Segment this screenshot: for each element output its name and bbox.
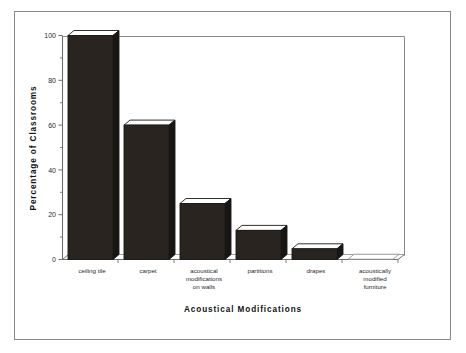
- y-axis-ticks: [59, 36, 63, 260]
- cat-label-ceiling-tile: ceiling tile: [78, 267, 106, 274]
- cat-label-furniture-line1: acoustically: [359, 267, 392, 274]
- bar-ceiling-tile[interactable]: [68, 31, 119, 260]
- cat-label-partitions: partitions: [247, 267, 272, 274]
- y-tick-label-20: 20: [48, 211, 56, 218]
- bar-carpet[interactable]: [124, 120, 175, 259]
- bar-drapes[interactable]: [292, 244, 343, 260]
- cat-label-furniture-line2: modified: [363, 275, 387, 282]
- y-axis-title: Percentage of Classrooms: [29, 86, 38, 211]
- figure-canvas: 0 20 40 60 80 100: [0, 0, 466, 353]
- cat-label-drapes: drapes: [307, 267, 326, 274]
- cat-label-carpet: carpet: [139, 267, 156, 274]
- cat-label-furniture-line3: furniture: [364, 283, 387, 290]
- x-category-labels: ceiling tile carpet acoustical modificat…: [78, 267, 391, 290]
- x-axis-title: Acoustical Modifications: [184, 305, 302, 314]
- cat-label-acoustical-walls-line2: modifications: [186, 275, 222, 282]
- y-tick-label-100: 100: [44, 32, 56, 39]
- bar-acoustically-modified-furniture[interactable]: [348, 254, 399, 259]
- y-tick-label-80: 80: [48, 77, 56, 84]
- cat-label-acoustical-walls-line1: acoustical: [190, 267, 218, 274]
- y-tick-label-0: 0: [52, 256, 56, 263]
- bar-chart-plot: 0 20 40 60 80 100: [0, 0, 466, 353]
- y-tick-label-40: 40: [48, 167, 56, 174]
- bar-acoustical-modifications-on-walls[interactable]: [180, 199, 231, 260]
- cat-label-acoustical-walls-line3: on walls: [193, 283, 215, 290]
- y-tick-label-60: 60: [48, 122, 56, 129]
- y-tick-labels: 0 20 40 60 80 100: [44, 32, 56, 263]
- bar-partitions[interactable]: [236, 225, 287, 259]
